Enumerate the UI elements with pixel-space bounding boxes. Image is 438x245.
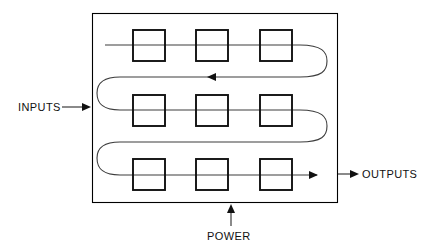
- inputs-arrow-icon: [82, 103, 91, 111]
- flow-arrow-row2-left: [207, 73, 216, 81]
- power-label: POWER: [207, 230, 251, 242]
- outputs-label: OUTPUTS: [362, 168, 417, 180]
- flow-uturn-left-1: [97, 77, 120, 110]
- flow-uturn-right-1: [300, 45, 327, 77]
- enclosure-boundary: [93, 14, 338, 203]
- diagram-canvas: INPUTS OUTPUTS POWER: [0, 0, 438, 245]
- outputs-arrow-icon: [350, 170, 359, 178]
- flow-uturn-right-2: [300, 110, 327, 142]
- power-arrow-icon: [227, 204, 235, 213]
- flow-arrow-row3-right: [309, 171, 318, 179]
- inputs-label: INPUTS: [18, 101, 61, 113]
- flow-uturn-left-2: [97, 142, 120, 175]
- block-diagram: INPUTS OUTPUTS POWER: [0, 0, 438, 245]
